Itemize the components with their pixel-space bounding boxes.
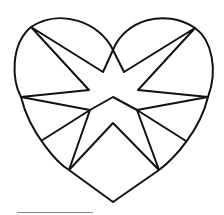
facet-right xyxy=(137,110,186,141)
facet-left-2 xyxy=(69,110,90,170)
heart-star-drawing xyxy=(0,0,224,215)
heart-outline xyxy=(15,18,213,202)
facet-left xyxy=(41,110,90,141)
star-upper xyxy=(21,27,208,110)
caption-line xyxy=(17,212,93,213)
facet-right-2 xyxy=(137,110,159,170)
